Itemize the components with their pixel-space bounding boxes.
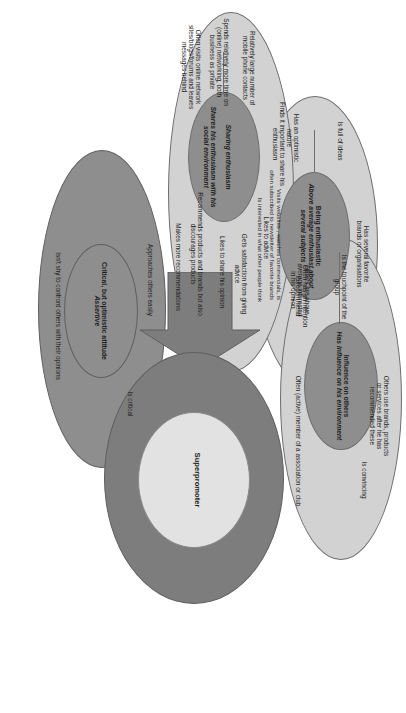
core-sharing-enthusiasm [188,92,260,222]
core-influence-on-others [304,322,378,450]
segment-divider-1 [314,130,315,172]
diagram-canvas: Superpromoter Being enthusiastic Above a… [0,0,406,713]
hub-superpromoter-inner [138,412,250,548]
segment-divider-3 [223,52,224,94]
segment-divider-2 [339,252,340,324]
core-critical-optimistic [64,244,138,378]
